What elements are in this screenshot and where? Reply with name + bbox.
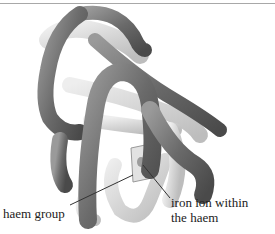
iron-ion-label: iron ion within the haem	[171, 195, 248, 225]
dark-tubes	[45, 13, 220, 220]
iron-ion-label-line1: iron ion within	[171, 195, 248, 210]
iron-ion-label-line2: the haem	[171, 210, 248, 225]
haem-group-label: haem group	[3, 206, 65, 221]
